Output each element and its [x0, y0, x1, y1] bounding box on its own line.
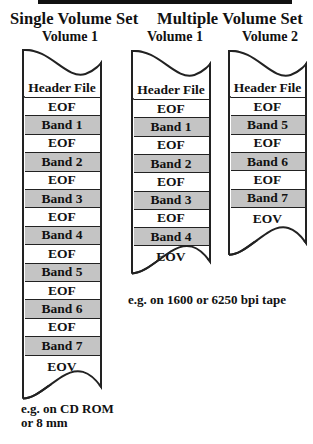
single-volume-label: Volume 1 — [42, 29, 98, 45]
multiple-volume-set-title: Multiple Volume Set — [157, 9, 303, 29]
multi-volume-2-label: Volume 2 — [242, 29, 298, 45]
tape-single-volume: Header FileEOFBand 1EOFBand 2EOFBand 3EO… — [23, 50, 101, 403]
single-caption-line-1: e.g. on CD ROM — [21, 402, 114, 416]
band-cell: Band 3 — [134, 191, 209, 209]
tape-multi-volume-1: Header FileEOFBand 1EOFBand 2EOFBand 3EO… — [132, 51, 210, 277]
eof-cell: EOF — [231, 134, 305, 152]
band-cell: Band 3 — [25, 189, 100, 207]
band-cell: Band 2 — [25, 152, 100, 170]
band-cell: Band 6 — [231, 152, 305, 170]
band-cell: Band 4 — [134, 227, 209, 245]
eof-cell: EOF — [134, 136, 209, 154]
band-cell: Band 1 — [25, 115, 100, 133]
eof-cell: EOF — [134, 99, 209, 117]
tape-multi-volume-2: Header FileEOFBand 5EOFBand 6EOFBand 7EO… — [229, 51, 306, 259]
multiple-volume-caption: e.g. on 1600 or 6250 bpi tape — [128, 293, 286, 307]
single-volume-set-title: Single Volume Set — [10, 9, 138, 29]
eof-cell: EOF — [134, 209, 209, 227]
eof-cell: EOF — [25, 97, 100, 115]
eof-cell: EOF — [231, 170, 305, 188]
multi-volume-1-label: Volume 1 — [147, 29, 203, 45]
eof-cell: EOF — [231, 97, 305, 115]
band-cell: Band 4 — [25, 226, 100, 244]
band-cell: Band 7 — [231, 189, 305, 207]
band-cell: Band 5 — [231, 115, 305, 133]
eof-cell: EOF — [25, 171, 100, 189]
single-volume-caption: e.g. on CD ROM or 8 mm — [21, 402, 114, 430]
header-file-cell: Header File — [134, 51, 209, 99]
band-cell: Band 7 — [25, 336, 100, 354]
eof-cell: EOF — [25, 207, 100, 225]
band-cell: Band 1 — [134, 117, 209, 135]
eov-cell: EOV — [25, 355, 100, 385]
header-file-cell: Header File — [25, 50, 100, 97]
top-border-bar — [38, 0, 292, 4]
eof-cell: EOF — [134, 172, 209, 190]
header-file-cell: Header File — [231, 51, 305, 97]
band-cell: Band 2 — [134, 154, 209, 172]
single-caption-line-2: or 8 mm — [21, 416, 114, 430]
eof-cell: EOF — [25, 244, 100, 262]
eov-cell: EOV — [231, 207, 305, 241]
eof-cell: EOF — [25, 281, 100, 299]
band-cell: Band 5 — [25, 263, 100, 281]
eof-cell: EOF — [25, 134, 100, 152]
eov-cell: EOV — [134, 245, 209, 259]
eof-cell: EOF — [25, 318, 100, 336]
band-cell: Band 6 — [25, 299, 100, 317]
